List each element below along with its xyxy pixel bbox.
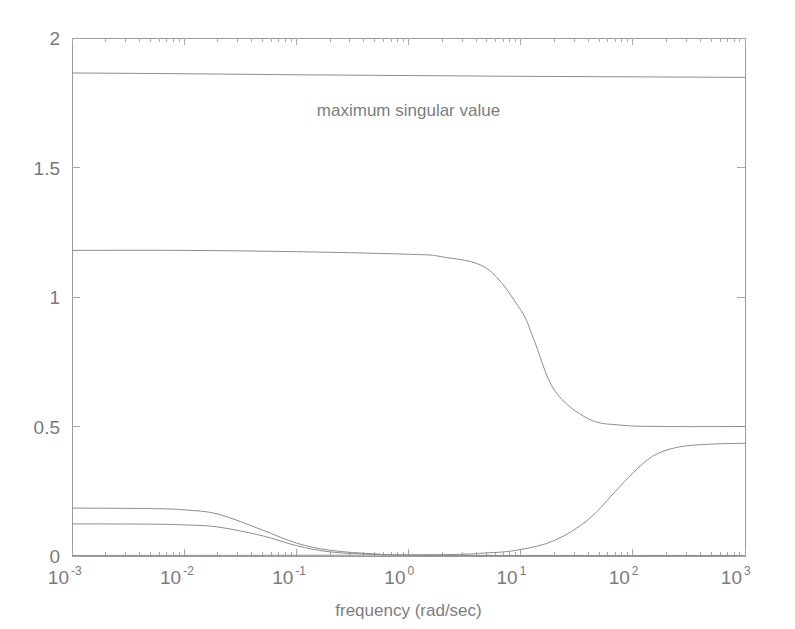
x-tick-label: 100 — [384, 564, 414, 588]
y-tick-label: 0.5 — [34, 417, 60, 438]
x-tick-label: 10-2 — [160, 564, 194, 588]
maximum-singular-value-label: maximum singular value — [317, 101, 500, 120]
x-tick-exponent: 2 — [632, 564, 639, 578]
y-tick-label: 1.5 — [34, 158, 60, 179]
x-tick-mantissa: 10 — [160, 567, 181, 588]
y-tick-label: 0 — [49, 546, 60, 567]
x-tick-mantissa: 10 — [721, 567, 742, 588]
y-tick-label: 1 — [49, 287, 60, 308]
figure-container: 00.511.5210-310-210-1100101102103frequen… — [0, 0, 795, 629]
x-tick-mantissa: 10 — [48, 567, 69, 588]
x-tick-exponent: 1 — [520, 564, 527, 578]
curve-1 — [72, 73, 745, 77]
x-tick-mantissa: 10 — [497, 567, 518, 588]
x-axis-label: frequency (rad/sec) — [335, 601, 481, 620]
x-tick-mantissa: 10 — [609, 567, 630, 588]
curve-5 — [72, 443, 745, 555]
singular-value-plot: 00.511.5210-310-210-1100101102103frequen… — [0, 0, 795, 629]
x-tick-mantissa: 10 — [384, 567, 405, 588]
x-tick-mantissa: 10 — [272, 567, 293, 588]
x-tick-exponent: 3 — [744, 564, 751, 578]
x-tick-label: 10-3 — [48, 564, 82, 588]
x-tick-exponent: 0 — [408, 564, 415, 578]
x-tick-exponent: -2 — [183, 564, 194, 578]
curve-3 — [72, 508, 745, 555]
x-tick-label: 101 — [497, 564, 527, 588]
y-tick-label: 2 — [49, 28, 60, 49]
x-tick-label: 103 — [721, 564, 751, 588]
x-tick-label: 102 — [609, 564, 639, 588]
x-tick-exponent: -1 — [295, 564, 306, 578]
x-tick-exponent: -3 — [71, 564, 82, 578]
x-tick-label: 10-1 — [272, 564, 306, 588]
curve-2 — [72, 250, 745, 426]
